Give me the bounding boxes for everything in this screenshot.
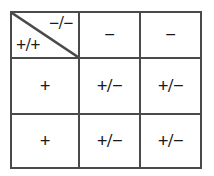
column-header-label: − — [141, 24, 200, 46]
column-header-label: − — [80, 24, 139, 46]
punnett-table: −/− +/+ − − + +/− +/− — [10, 11, 202, 169]
column-header-2: − — [140, 12, 201, 58]
table-row: −/− +/+ − − — [11, 12, 201, 58]
row-header-label: + — [12, 130, 78, 152]
punnett-square-figure: −/− +/+ − − + +/− +/− — [10, 11, 200, 167]
row-header-label: + — [12, 75, 78, 97]
genotype-label: +/− — [141, 75, 200, 97]
table-row: + +/− +/− — [11, 114, 201, 168]
genotype-cell-r2c1: +/− — [79, 114, 140, 168]
diagonal-split-header-cell: −/− +/+ — [11, 12, 79, 58]
genotype-cell-r1c2: +/− — [140, 58, 201, 114]
row-header-2: + — [11, 114, 79, 168]
header-upper-right-label: −/− — [49, 14, 73, 34]
column-header-1: − — [79, 12, 140, 58]
genotype-cell-r2c2: +/− — [140, 114, 201, 168]
genotype-label: +/− — [80, 75, 139, 97]
table-row: + +/− +/− — [11, 58, 201, 114]
header-lower-left-label: +/+ — [16, 36, 40, 56]
genotype-label: +/− — [80, 130, 139, 152]
genotype-cell-r1c1: +/− — [79, 58, 140, 114]
genotype-label: +/− — [141, 130, 200, 152]
row-header-1: + — [11, 58, 79, 114]
